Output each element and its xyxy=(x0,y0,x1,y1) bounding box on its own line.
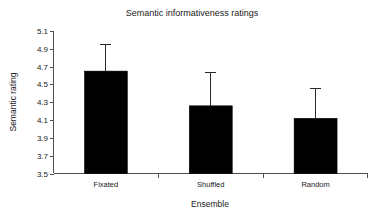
bar xyxy=(84,71,127,173)
y-tick-label: 3.9 xyxy=(37,134,49,143)
y-axis-tick-marks xyxy=(50,32,54,175)
y-axis-title: Semantic rating xyxy=(8,72,18,131)
y-tick-label: 4.5 xyxy=(37,80,49,89)
chart-container: Semantic informativeness ratings 5.14.94… xyxy=(0,0,385,215)
y-tick-label: 3.7 xyxy=(37,152,49,161)
y-tick-label: 3.5 xyxy=(37,170,49,179)
x-category-label: Shuffled xyxy=(197,180,224,189)
y-tick-label: 4.3 xyxy=(37,98,49,107)
x-category-label: Random xyxy=(301,180,329,189)
chart-title: Semantic informativeness ratings xyxy=(126,8,259,18)
x-axis-tick-marks xyxy=(158,174,367,179)
y-axis-tick-labels: 5.14.94.74.54.34.13.93.73.5 xyxy=(37,27,49,179)
x-axis-title: Ensemble xyxy=(191,199,229,209)
x-category-label: Fixated xyxy=(94,180,119,189)
x-axis-category-labels: FixatedShuffledRandom xyxy=(94,180,330,189)
bar-chart: Semantic informativeness ratings 5.14.94… xyxy=(0,0,385,215)
y-tick-label: 4.1 xyxy=(37,116,49,125)
bar xyxy=(294,118,337,173)
bar xyxy=(189,106,232,174)
y-tick-label: 5.1 xyxy=(37,27,49,36)
y-tick-label: 4.9 xyxy=(37,45,49,54)
y-tick-label: 4.7 xyxy=(37,63,49,72)
